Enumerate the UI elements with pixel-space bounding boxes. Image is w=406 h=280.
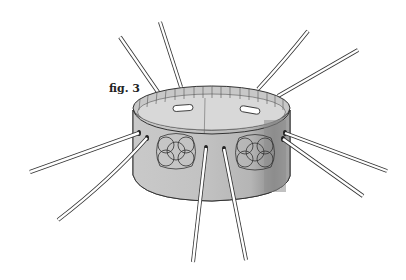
band-inner bbox=[138, 94, 286, 130]
strap-6 bbox=[58, 138, 147, 220]
strap-2 bbox=[160, 22, 181, 87]
slot-left bbox=[173, 104, 193, 111]
straps-back bbox=[120, 22, 358, 96]
strap-3 bbox=[258, 31, 308, 89]
strap-4 bbox=[278, 50, 358, 96]
band-shadow-right bbox=[264, 120, 286, 192]
basket-band-illustration bbox=[0, 0, 406, 280]
illustration-canvas: fig. 3 bbox=[0, 0, 406, 280]
figure-caption: fig. 3 bbox=[109, 82, 140, 95]
